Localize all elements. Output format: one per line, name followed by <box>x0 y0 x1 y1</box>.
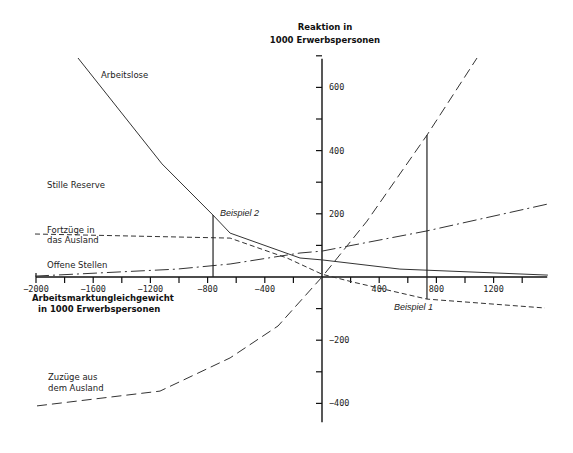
label-beispiel-2: Beispiel 2 <box>220 208 259 218</box>
label-zuzuege-line2: dem Ausland <box>48 383 104 393</box>
y-axis-ticks <box>316 56 322 404</box>
axes: −2000−1600−1200−800−4004008001200 600400… <box>23 56 547 423</box>
label-beispiel-1: Beispiel 1 <box>394 302 433 312</box>
x-axis-title-line2: in 1000 Erwerbspersonen <box>38 304 160 314</box>
y-axis-tick-labels: 600400200−200−400 <box>329 82 349 408</box>
y-tick-label: −200 <box>329 335 349 345</box>
x-tick-label: −800 <box>197 284 217 294</box>
x-axis-ticks <box>36 273 522 283</box>
series-arbeitslose <box>78 58 548 275</box>
y-axis-title-line2: 1000 Erwerbspersonen <box>270 35 380 45</box>
y-tick-label: 200 <box>329 209 344 219</box>
series-zuzuege <box>37 58 477 406</box>
y-tick-label: 400 <box>329 146 344 156</box>
x-axis-title-line1: Arbeitsmarktungleichgewicht <box>32 293 174 303</box>
series-offene-stellen <box>35 204 548 276</box>
label-fortzuege-line2: das Ausland <box>47 235 99 245</box>
label-arbeitslose: Arbeitslose <box>101 70 148 80</box>
y-tick-label: 600 <box>329 82 344 92</box>
label-zuzuege-line1: Zuzüge aus <box>48 372 98 382</box>
x-tick-label: −400 <box>255 284 275 294</box>
label-stille-reserve: Stille Reserve <box>47 180 105 190</box>
x-tick-label: 1200 <box>483 284 503 294</box>
y-tick-label: −400 <box>329 398 349 408</box>
chart-canvas: −2000−1600−1200−800−4004008001200 600400… <box>0 0 573 453</box>
x-tick-label: 800 <box>429 284 444 294</box>
label-offene-stellen: Offene Stellen <box>47 260 107 270</box>
y-axis-title-line1: Reaktion in <box>298 22 353 32</box>
series-group <box>35 58 548 406</box>
label-fortzuege-line1: Fortzüge in <box>47 225 95 235</box>
x-tick-label: 400 <box>372 284 387 294</box>
